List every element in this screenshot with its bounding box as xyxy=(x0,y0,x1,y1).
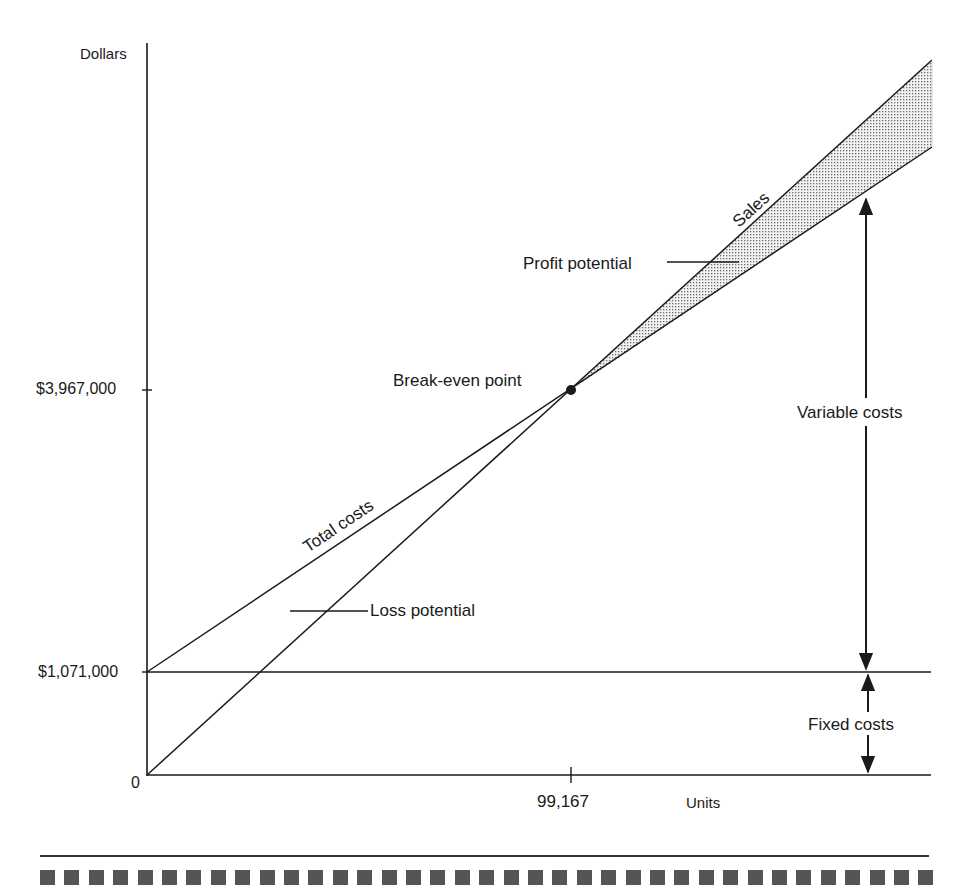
footer-square xyxy=(626,870,641,885)
footer-square xyxy=(211,870,226,885)
break-even-dot xyxy=(566,385,576,395)
footer-square xyxy=(260,870,275,885)
x-tick-label-be: 99,167 xyxy=(537,793,589,810)
fixed-costs-label: Fixed costs xyxy=(808,716,894,733)
loss-potential-label: Loss potential xyxy=(370,602,475,619)
footer-square xyxy=(455,870,470,885)
footer-square xyxy=(748,870,763,885)
footer-square-strip xyxy=(40,870,940,885)
footer-square xyxy=(577,870,592,885)
footer-square xyxy=(162,870,177,885)
footer-square xyxy=(796,870,811,885)
profit-potential-label: Profit potential xyxy=(523,255,632,272)
origin-label: 0 xyxy=(131,775,140,791)
footer-square xyxy=(528,870,543,885)
footer-square xyxy=(870,870,885,885)
footer-square xyxy=(601,870,616,885)
footer-square xyxy=(40,870,55,885)
footer-square xyxy=(186,870,201,885)
footer-square xyxy=(138,870,153,885)
y-tick-label-fixed: $1,071,000 xyxy=(38,664,118,680)
footer-square xyxy=(845,870,860,885)
footer-square xyxy=(723,870,738,885)
x-axis-label: Units xyxy=(686,795,720,810)
footer-square xyxy=(235,870,250,885)
footer-square xyxy=(406,870,421,885)
footer-square xyxy=(772,870,787,885)
footer-square xyxy=(308,870,323,885)
footer-square xyxy=(674,870,689,885)
footer-square xyxy=(382,870,397,885)
footer-square xyxy=(113,870,128,885)
footer-square xyxy=(430,870,445,885)
footer-square xyxy=(333,870,348,885)
footer-square xyxy=(821,870,836,885)
footer-square xyxy=(699,870,714,885)
footer-square xyxy=(479,870,494,885)
footer-square xyxy=(894,870,909,885)
footer-square xyxy=(504,870,519,885)
y-axis-label: Dollars xyxy=(80,46,127,61)
footer-square xyxy=(89,870,104,885)
y-tick-label-high: $3,967,000 xyxy=(36,381,116,397)
break-even-label: Break-even point xyxy=(393,372,522,389)
variable-costs-label: Variable costs xyxy=(797,404,903,421)
footer-square xyxy=(64,870,79,885)
footer-square xyxy=(357,870,372,885)
footer-square xyxy=(552,870,567,885)
footer-rule xyxy=(40,855,929,857)
footer-square xyxy=(650,870,665,885)
footer-square xyxy=(284,870,299,885)
break-even-chart: Sales Total costs xyxy=(0,0,962,890)
footer-square xyxy=(918,870,933,885)
